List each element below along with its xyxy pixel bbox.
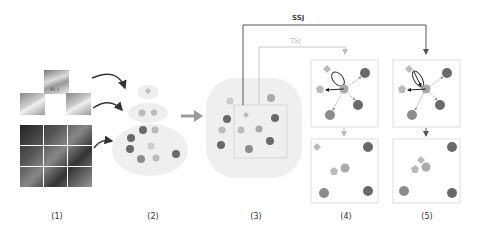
panel-label-3: (3) — [241, 212, 271, 221]
panel-4-bottom — [311, 139, 378, 203]
panel-2-clusters — [112, 85, 188, 176]
panel-5-top — [393, 60, 460, 127]
panel-4-top — [311, 60, 378, 127]
tsj-label: TSJ — [290, 37, 301, 45]
panel-label-5: (5) — [412, 212, 442, 221]
panel-label-4: (4) — [331, 212, 361, 221]
panel-3-merged — [206, 78, 302, 178]
panel-5-bottom — [393, 139, 460, 203]
panel-label-2: (2) — [138, 212, 168, 221]
diagram-canvas — [0, 0, 479, 234]
ssj-label: SSJ — [292, 14, 304, 22]
panel-label-1: (1) — [42, 212, 72, 221]
big-arrow — [181, 110, 203, 122]
